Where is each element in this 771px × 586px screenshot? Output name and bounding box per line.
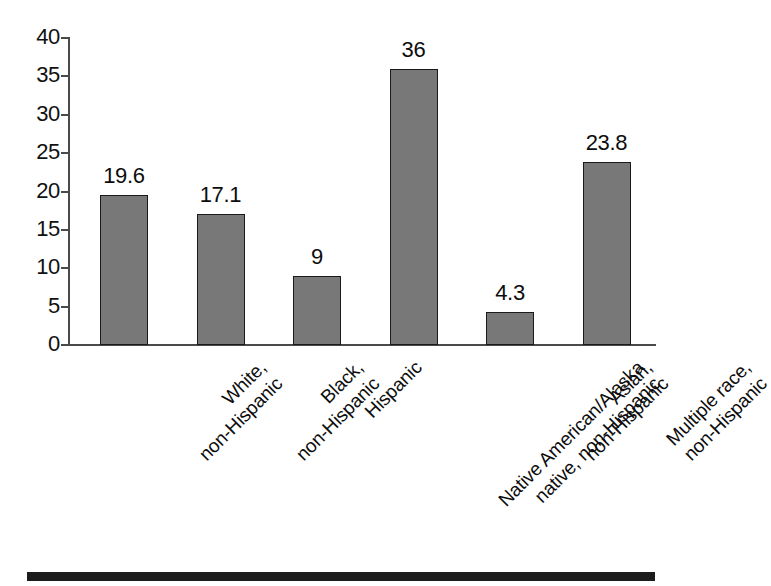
- y-tick-label: 40: [14, 26, 60, 48]
- y-tick-label: 10: [14, 256, 60, 278]
- y-tick-mark: [61, 37, 69, 39]
- bar-value-label: 4.3: [460, 282, 560, 304]
- y-tick-label: 15: [14, 218, 60, 240]
- x-axis-label: Multiple race,non-Hispanic: [661, 356, 771, 466]
- y-tick-label: 0: [14, 333, 60, 355]
- bar: [390, 69, 438, 345]
- y-tick-mark: [61, 114, 69, 116]
- y-tick-mark: [61, 229, 69, 231]
- y-tick-label: 30: [14, 103, 60, 125]
- y-tick-mark: [61, 75, 69, 77]
- x-axis-label: White,non-Hispanic: [178, 356, 287, 465]
- bar: [486, 312, 534, 345]
- bar-value-label: 19.6: [74, 165, 174, 187]
- bar-value-label: 9: [267, 246, 367, 268]
- bar-value-label: 17.1: [171, 184, 271, 206]
- bar: [100, 195, 148, 345]
- y-tick-label: 20: [14, 180, 60, 202]
- bar: [583, 162, 631, 345]
- y-tick-mark: [61, 344, 69, 346]
- y-tick-mark: [61, 306, 69, 308]
- y-tick-mark: [61, 191, 69, 193]
- y-tick-mark: [61, 152, 69, 154]
- bar-value-label: 23.8: [557, 132, 657, 154]
- y-tick-label: 5: [14, 295, 60, 317]
- y-tick-label: 35: [14, 64, 60, 86]
- bar: [197, 214, 245, 345]
- bar: [293, 276, 341, 345]
- y-tick-mark: [61, 267, 69, 269]
- x-axis-line: [68, 344, 656, 346]
- bar-value-label: 36: [364, 39, 464, 61]
- y-tick-label: 25: [14, 141, 60, 163]
- page-rule-artifact: [27, 572, 655, 581]
